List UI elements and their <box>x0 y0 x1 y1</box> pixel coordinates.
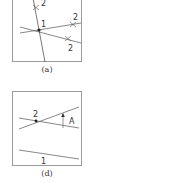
bottom-line <box>19 150 79 159</box>
caption-d: (d) <box>12 169 82 178</box>
caption-a: (a) <box>12 65 82 74</box>
label-bottom-line: 1 <box>41 157 46 166</box>
label-center: 1 <box>41 20 46 29</box>
label-angle: A <box>69 117 75 126</box>
rising-line <box>20 23 81 33</box>
figure-d-drawing: 2 A 1 <box>13 92 83 167</box>
figure-d-panel: 2 A 1 <box>12 91 82 166</box>
label-right-upper: 2 <box>73 13 78 22</box>
label-right-lower: 2 <box>68 44 73 53</box>
intersection-point <box>35 120 38 123</box>
figure-a-drawing: 2 1 2 2 <box>13 0 83 62</box>
figure-a-panel: 2 1 2 2 <box>12 0 82 62</box>
label-intersection: 2 <box>33 110 38 119</box>
label-top: 2 <box>41 0 46 8</box>
descending-line <box>20 27 81 43</box>
